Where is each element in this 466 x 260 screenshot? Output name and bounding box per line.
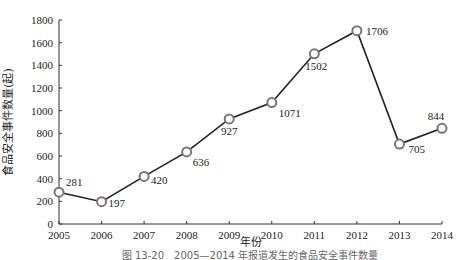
y-axis-title: 食品安全事件数量(起) (1, 68, 15, 176)
data-point-label: 1502 (305, 60, 327, 72)
x-tick-label: 2013 (388, 229, 411, 241)
y-axis-ticks: 020040060080010001200140016001800 (31, 14, 62, 230)
data-point-label: 197 (109, 197, 126, 209)
figure-caption: 图 13-20 2005—2014 年报道发生的食品安全事件数量 (122, 249, 378, 260)
data-point-label: 927 (221, 125, 238, 137)
y-tick-label: 1200 (31, 82, 54, 94)
data-point-marker (438, 124, 447, 133)
data-point-marker (225, 114, 234, 123)
y-tick-label: 400 (37, 173, 54, 185)
data-point-label: 636 (193, 156, 210, 168)
y-tick-label: 1400 (31, 59, 54, 71)
data-point-marker (395, 140, 404, 149)
x-tick-label: 2010 (261, 229, 284, 241)
data-point-label: 844 (428, 110, 445, 122)
y-tick-label: 800 (37, 127, 54, 139)
data-point-marker (352, 26, 361, 35)
x-tick-label: 2009 (218, 229, 241, 241)
data-point-label: 705 (408, 143, 425, 155)
series-line (59, 31, 442, 202)
x-tick-label: 2007 (133, 229, 156, 241)
data-labels: 281197420636927107115021706705844 (66, 25, 445, 209)
data-point-marker (182, 147, 191, 156)
data-markers (55, 26, 447, 206)
chart-canvas: 020040060080010001200140016001800 200520… (0, 0, 466, 260)
data-point-label: 1706 (366, 25, 389, 37)
x-axis-title: 年份 (240, 235, 262, 249)
x-tick-label: 2005 (48, 229, 71, 241)
y-tick-label: 1000 (31, 105, 54, 117)
y-tick-label: 1800 (31, 14, 54, 26)
data-point-marker (97, 197, 106, 206)
data-point-marker (55, 188, 64, 197)
data-point-marker (310, 49, 319, 58)
data-point-marker (140, 172, 149, 181)
data-point-marker (267, 98, 276, 107)
data-point-label: 281 (66, 176, 83, 188)
y-tick-label: 200 (37, 195, 54, 207)
data-point-label: 1071 (279, 107, 301, 119)
y-tick-label: 600 (37, 150, 54, 162)
x-tick-label: 2014 (431, 229, 454, 241)
x-tick-label: 2006 (91, 229, 114, 241)
x-tick-label: 2012 (346, 229, 368, 241)
x-tick-label: 2011 (304, 229, 326, 241)
y-tick-label: 1600 (31, 37, 54, 49)
data-point-label: 420 (151, 174, 168, 186)
x-tick-label: 2008 (176, 229, 199, 241)
